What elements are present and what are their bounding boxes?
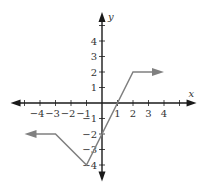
y-tick-label: 3	[91, 51, 97, 62]
x-tick-label: −3	[45, 108, 60, 119]
y-tick-label: 1	[91, 82, 97, 93]
x-axis-right-arrow	[187, 100, 197, 107]
x-tick-label: 4	[161, 108, 167, 119]
y-tick-label: −1	[82, 113, 97, 124]
x-axis-left-arrow	[11, 100, 21, 107]
x-tick-label: 2	[130, 108, 136, 119]
x-tick-label: −4	[30, 108, 45, 119]
graph-left-arrow	[25, 130, 37, 138]
y-axis-label: y	[107, 11, 114, 22]
x-axis-label: x	[189, 88, 195, 99]
x-tick-label: 1	[114, 108, 120, 119]
x-tick-label: 3	[145, 108, 151, 119]
graph-right-arrow	[152, 68, 164, 76]
x-tick-label: −2	[61, 108, 76, 119]
y-tick-label: −4	[82, 160, 97, 171]
y-axis-bottom-arrow	[99, 172, 106, 182]
y-tick-label: −2	[82, 129, 97, 140]
y-tick-label: 2	[91, 67, 97, 78]
axes	[11, 12, 197, 182]
y-axis-top-arrow	[99, 12, 106, 22]
coordinate-plane: −4−3−2−11234−4−3−2−11234 x y	[0, 0, 202, 186]
y-tick-label: 4	[91, 36, 97, 47]
